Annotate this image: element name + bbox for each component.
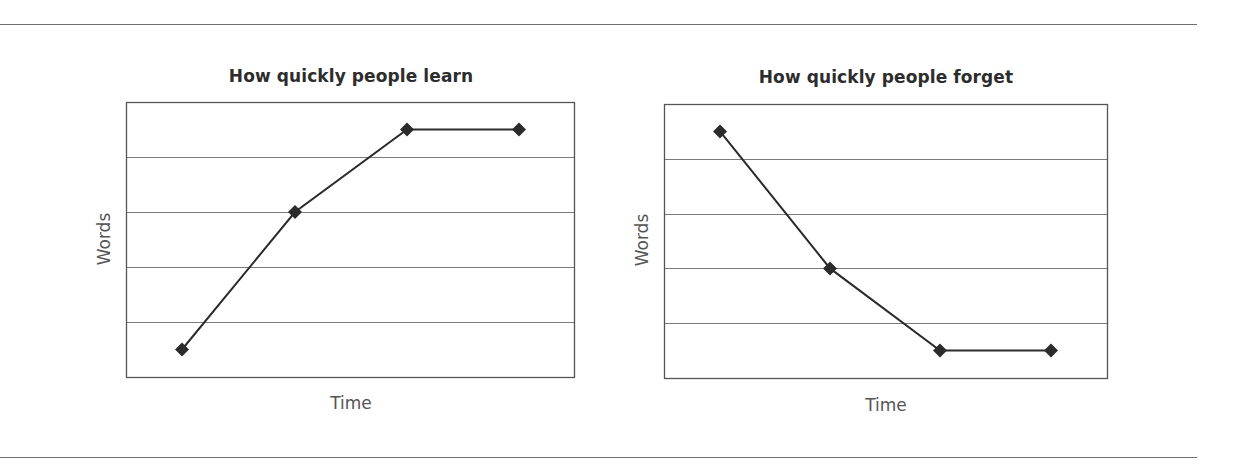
data-line	[720, 131, 1051, 350]
diamond-marker-icon	[1044, 344, 1058, 358]
chart-forget-plot-area	[0, 0, 1242, 465]
